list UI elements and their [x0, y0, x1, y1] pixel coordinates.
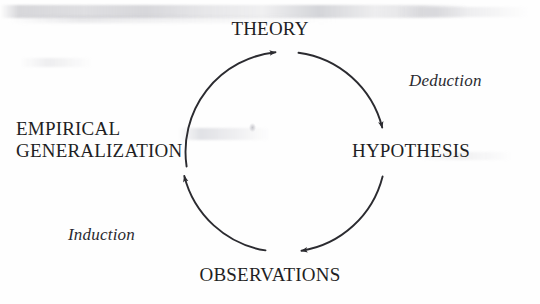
- arrow-theory-to-hypothesis: [299, 53, 383, 128]
- arrow-observations-to-empirical: [184, 176, 265, 250]
- arrow-hypothesis-to-observations: [302, 177, 383, 251]
- node-label-empirical-generalization: EMPIRICAL GENERALIZATION: [16, 118, 182, 162]
- node-label-empirical-line2: GENERALIZATION: [16, 140, 182, 162]
- process-label-induction: Induction: [68, 225, 135, 245]
- science-cycle-figure: THEORY HYPOTHESIS OBSERVATIONS EMPIRICAL…: [0, 0, 540, 304]
- node-label-observations: OBSERVATIONS: [0, 264, 540, 286]
- node-label-theory: THEORY: [0, 18, 540, 40]
- arrow-empirical-to-theory: [186, 52, 276, 166]
- node-label-hypothesis: HYPOTHESIS: [352, 140, 470, 162]
- process-label-deduction: Deduction: [409, 71, 482, 91]
- node-label-empirical-line1: EMPIRICAL: [16, 118, 182, 140]
